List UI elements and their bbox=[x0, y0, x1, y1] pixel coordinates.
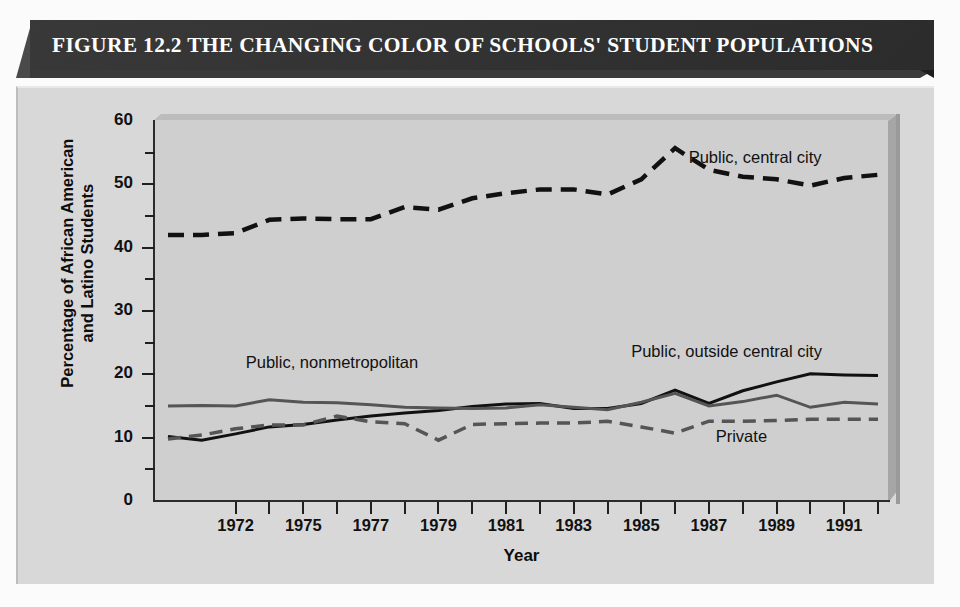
series-line bbox=[168, 416, 878, 440]
figure-container: FIGURE 12.2 THE CHANGING COLOR OF SCHOOL… bbox=[0, 0, 960, 607]
chart-frame: 0102030405060 19721975197719791981198319… bbox=[16, 86, 934, 584]
title-bar: FIGURE 12.2 THE CHANGING COLOR OF SCHOOL… bbox=[30, 20, 934, 70]
figure-title-block: FIGURE 12.2 THE CHANGING COLOR OF SCHOOL… bbox=[16, 20, 934, 77]
title-bevel-left bbox=[16, 28, 30, 78]
series-label: Public, outside central city bbox=[631, 342, 822, 361]
title-bevel-bottom bbox=[16, 70, 934, 78]
series-line bbox=[168, 393, 878, 410]
series-label: Private bbox=[716, 427, 767, 446]
page-title: FIGURE 12.2 THE CHANGING COLOR OF SCHOOL… bbox=[52, 33, 873, 58]
series-label: Public, central city bbox=[689, 148, 822, 167]
series-label: Public, nonmetropolitan bbox=[246, 353, 418, 372]
